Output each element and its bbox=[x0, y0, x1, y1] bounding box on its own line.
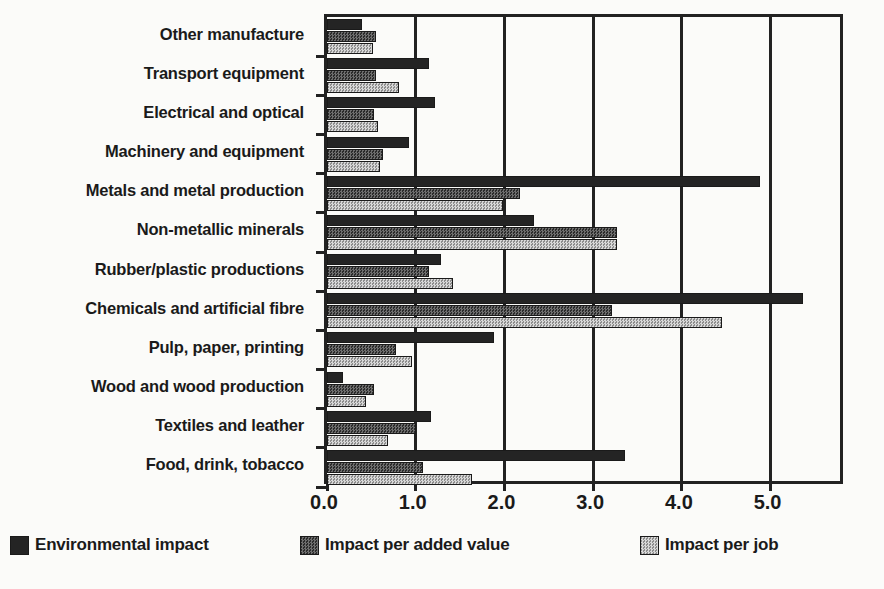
category-label: Electrical and optical bbox=[4, 104, 304, 121]
category-label: Other manufacture bbox=[4, 26, 304, 43]
chart-legend: Environmental impactImpact per added val… bbox=[0, 535, 884, 575]
y-tick bbox=[316, 368, 327, 371]
y-tick bbox=[316, 172, 327, 175]
bar bbox=[327, 396, 366, 407]
bar bbox=[327, 149, 383, 160]
legend-label: Impact per job bbox=[665, 535, 778, 555]
bar bbox=[327, 411, 431, 422]
x-axis-label-1.0: 1.0 bbox=[399, 492, 427, 512]
category-label: Pulp, paper, printing bbox=[4, 339, 304, 356]
category-label: Transport equipment bbox=[4, 65, 304, 82]
y-tick bbox=[316, 486, 327, 489]
y-tick bbox=[316, 290, 327, 293]
bar bbox=[327, 227, 617, 238]
category-label: Metals and metal production bbox=[4, 182, 304, 199]
legend-label: Impact per added value bbox=[325, 535, 510, 555]
bar bbox=[327, 254, 441, 265]
category-label-column: Food, drink, tobaccoTextiles and leather… bbox=[0, 14, 314, 484]
x-tick-3.0 bbox=[592, 481, 595, 491]
bar bbox=[327, 278, 453, 289]
y-tick bbox=[316, 251, 327, 254]
y-tick bbox=[316, 407, 327, 410]
bar bbox=[327, 58, 429, 69]
x-axis-label-3.0: 3.0 bbox=[576, 492, 604, 512]
bar bbox=[327, 305, 612, 316]
bar bbox=[327, 356, 412, 367]
bar-chart-figure: Food, drink, tobaccoTextiles and leather… bbox=[0, 0, 884, 589]
bar bbox=[327, 384, 374, 395]
bar bbox=[327, 121, 378, 132]
bar bbox=[327, 97, 435, 108]
bar bbox=[327, 137, 409, 148]
medium-hatch-swatch bbox=[300, 536, 319, 555]
dark-solid-swatch bbox=[10, 536, 29, 555]
bar bbox=[327, 317, 722, 328]
bar bbox=[327, 450, 625, 461]
bar bbox=[327, 188, 520, 199]
legend-item[interactable]: Impact per job bbox=[640, 535, 778, 555]
bar bbox=[327, 332, 494, 343]
y-tick bbox=[316, 94, 327, 97]
bar bbox=[327, 435, 388, 446]
y-tick bbox=[316, 55, 327, 58]
bar bbox=[327, 31, 376, 42]
bar bbox=[327, 43, 373, 54]
y-tick bbox=[316, 329, 327, 332]
category-label: Food, drink, tobacco bbox=[4, 456, 304, 473]
bar bbox=[327, 82, 399, 93]
bar bbox=[327, 176, 760, 187]
category-label: Non-metallic minerals bbox=[4, 221, 304, 238]
bar bbox=[327, 474, 472, 485]
bar bbox=[327, 462, 423, 473]
y-tick bbox=[316, 133, 327, 136]
bar bbox=[327, 423, 416, 434]
x-tick-5.0 bbox=[769, 481, 772, 491]
y-tick bbox=[316, 211, 327, 214]
category-label: Machinery and equipment bbox=[4, 143, 304, 160]
bar bbox=[327, 293, 803, 304]
bar bbox=[327, 372, 343, 383]
bar bbox=[327, 239, 617, 250]
x-tick-2.0 bbox=[503, 481, 506, 491]
bar bbox=[327, 161, 380, 172]
gridline-4.0 bbox=[680, 17, 683, 481]
legend-item[interactable]: Impact per added value bbox=[300, 535, 510, 555]
bar bbox=[327, 266, 429, 277]
bar bbox=[327, 215, 534, 226]
plot-area bbox=[324, 14, 843, 484]
bar bbox=[327, 19, 362, 30]
bar bbox=[327, 109, 374, 120]
x-axis-tick-labels: 0.01.02.03.04.05.0 bbox=[0, 492, 884, 522]
category-label: Textiles and leather bbox=[4, 417, 304, 434]
x-axis-label-2.0: 2.0 bbox=[488, 492, 516, 512]
light-hatch-swatch bbox=[640, 536, 659, 555]
bar bbox=[327, 200, 503, 211]
y-tick bbox=[316, 446, 327, 449]
x-axis-label-4.0: 4.0 bbox=[665, 492, 693, 512]
legend-label: Environmental impact bbox=[35, 535, 209, 555]
x-tick-4.0 bbox=[680, 481, 683, 491]
category-label: Rubber/plastic productions bbox=[4, 261, 304, 278]
legend-item[interactable]: Environmental impact bbox=[10, 535, 209, 555]
x-axis-label-0.0: 0.0 bbox=[310, 492, 338, 512]
bar bbox=[327, 344, 396, 355]
category-label: Wood and wood production bbox=[4, 378, 304, 395]
gridline-5.0 bbox=[769, 17, 772, 481]
x-axis-label-5.0: 5.0 bbox=[754, 492, 782, 512]
category-label: Chemicals and artificial fibre bbox=[4, 300, 304, 317]
bar bbox=[327, 70, 376, 81]
